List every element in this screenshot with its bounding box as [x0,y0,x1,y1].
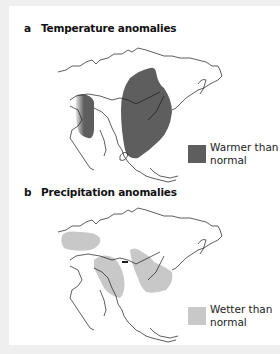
legend-label-wet-line1: Wetter than [210,303,280,316]
wet-regions [61,232,172,299]
precipitation-anomaly-map [0,0,280,354]
legend-label-wet-line2: normal [210,316,280,329]
legend-label-wet: Wetter than normal [210,303,280,329]
legend-swatch-wet [188,307,206,325]
